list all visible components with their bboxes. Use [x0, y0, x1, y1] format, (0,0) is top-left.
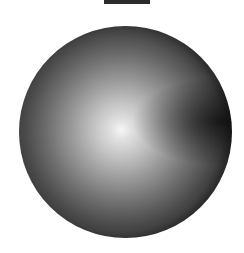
top-bar	[104, 0, 150, 4]
canvas: Grayscale shaded sphere rendering with a…	[0, 0, 244, 253]
shaded-sphere	[19, 26, 232, 238]
